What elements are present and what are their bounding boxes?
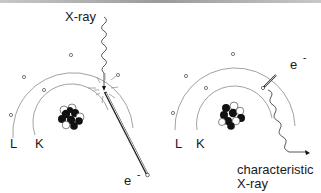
ejected-electron-label: e: [124, 174, 131, 187]
xray-label: X-ray: [65, 10, 96, 23]
electron-icon: [42, 88, 45, 91]
electron-icon: [204, 86, 207, 89]
electron-icon: [171, 111, 174, 114]
ejected-electron-charge: -: [137, 170, 140, 180]
electron-icon: [184, 74, 187, 77]
k-shell-label: K: [35, 137, 44, 150]
nucleus-icon: [58, 104, 84, 130]
electron-icon: [69, 53, 72, 56]
xray-wave: [102, 17, 107, 88]
right-l-shell-label: L: [175, 137, 182, 150]
xray-arrowhead: [102, 86, 106, 91]
nucleus-icon: [219, 102, 246, 130]
electron-icon: [9, 113, 12, 116]
char-xray-arrowhead: [305, 150, 310, 155]
electron-icon: [231, 52, 234, 55]
electron-icon: [22, 75, 25, 78]
electron-label: e: [290, 58, 297, 71]
ejected-electron-icon: [146, 173, 150, 177]
left-atom: [9, 17, 149, 177]
l-shell-label: L: [10, 137, 17, 150]
electron-charge: -: [303, 53, 306, 63]
right-k-shell-label: K: [196, 137, 205, 150]
electron-icon: [116, 73, 119, 76]
characteristic-label-line2: X-ray: [237, 177, 268, 190]
characteristic-label-line1: characteristic: [237, 163, 314, 176]
